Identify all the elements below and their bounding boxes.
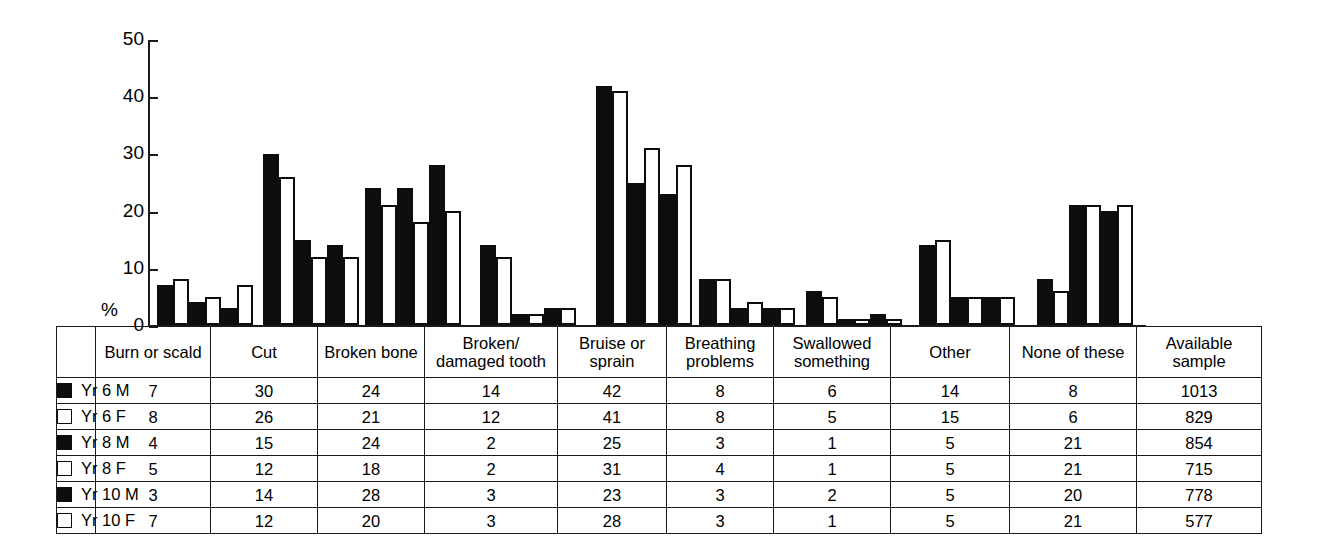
legend-swatch-icon (57, 435, 72, 450)
table-cell: 15 (891, 404, 1010, 430)
table-cell: 20 (318, 508, 425, 534)
injury-type-figure: % 50403020100 Burn or scaldCutBroken bon… (0, 0, 1318, 553)
bar (676, 165, 692, 325)
table-cell: 24 (318, 430, 425, 456)
bar (445, 211, 461, 325)
bar (806, 291, 822, 325)
bar (157, 285, 173, 325)
bar (381, 205, 397, 325)
bar (1117, 205, 1133, 325)
table-cell: 24 (318, 378, 425, 404)
table-cell: 715 (1137, 456, 1262, 482)
bar (983, 297, 999, 326)
bar (715, 279, 731, 325)
table-cell: 21 (1010, 430, 1137, 456)
bar (1069, 205, 1085, 325)
bar (596, 86, 612, 325)
table-cell: 18 (318, 456, 425, 482)
bar (528, 314, 544, 325)
legend-swatch-icon (57, 487, 72, 502)
column-header: None of these (1010, 327, 1137, 378)
column-header: Cut (211, 327, 318, 378)
table-cell: 12 (211, 508, 318, 534)
bar (1101, 211, 1117, 325)
bar (544, 308, 560, 325)
bar (173, 279, 189, 325)
table-cell: 1013 (1137, 378, 1262, 404)
table-head: Burn or scaldCutBroken boneBroken/ damag… (57, 327, 1262, 378)
bar (560, 308, 576, 325)
column-header: Broken/ damaged tooth (425, 327, 558, 378)
table-cell: 778 (1137, 482, 1262, 508)
legend-cell: Yr 8 F (57, 456, 96, 482)
bar (512, 314, 528, 325)
bar (1037, 279, 1053, 325)
table-cell: 1 (774, 508, 891, 534)
table-row: Yr 6 F82621124185156829 (57, 404, 1262, 430)
column-header: Breathing problems (667, 327, 774, 378)
table-row: Yr 10 M3142832332520778 (57, 482, 1262, 508)
bar (612, 91, 628, 325)
table-cell: 12 (211, 456, 318, 482)
table-cell: 20 (1010, 482, 1137, 508)
bar-group (696, 40, 798, 325)
bar-group (362, 40, 464, 325)
table-cell: 3 (667, 508, 774, 534)
table-cell: 829 (1137, 404, 1262, 430)
column-header: Bruise or sprain (558, 327, 667, 378)
table-cell: 14 (891, 378, 1010, 404)
legend-label: Yr 8 M (81, 433, 130, 451)
legend-label: Yr 8 F (81, 459, 126, 477)
bar-group (798, 40, 910, 325)
table-cell: 2 (425, 456, 558, 482)
column-header: Burn or scald (96, 327, 211, 378)
table-cell: 5 (891, 456, 1010, 482)
bar (205, 297, 221, 326)
legend-swatch-icon (57, 383, 72, 398)
bar (327, 245, 343, 325)
table-cell: 854 (1137, 430, 1262, 456)
y-tick-label: 50 (100, 29, 144, 48)
table-row: Yr 10 F7122032831521577 (57, 508, 1262, 534)
table-cell: 14 (425, 378, 558, 404)
bar (189, 302, 205, 325)
column-header: Broken bone (318, 327, 425, 378)
table-cell: 1 (774, 430, 891, 456)
bar (967, 297, 983, 326)
table-cell: 3 (667, 482, 774, 508)
bar (263, 154, 279, 325)
column-header: Available sample (1137, 327, 1262, 378)
bar-group (260, 40, 362, 325)
bar (237, 285, 253, 325)
bar-group (592, 40, 696, 325)
table-cell: 4 (667, 456, 774, 482)
table-cell: 2 (774, 482, 891, 508)
bar-group (150, 40, 260, 325)
table-cell: 41 (558, 404, 667, 430)
table-corner-cell (57, 327, 96, 378)
table-cell: 6 (774, 378, 891, 404)
bar (279, 177, 295, 325)
table-cell: 1 (774, 456, 891, 482)
bar-chart: % 50403020100 (0, 0, 1318, 340)
table-cell: 8 (667, 404, 774, 430)
legend-cell: Yr 6 M (57, 378, 96, 404)
table-cell: 31 (558, 456, 667, 482)
legend-cell: Yr 10 F (57, 508, 96, 534)
table-cell: 3 (425, 508, 558, 534)
legend-swatch-icon (57, 513, 72, 528)
bar (413, 222, 429, 325)
bar-group (910, 40, 1024, 325)
legend-swatch-icon (57, 409, 72, 424)
legend-label: Yr 10 M (81, 485, 139, 503)
bar (999, 297, 1015, 326)
bar (747, 302, 763, 325)
table-cell: 5 (891, 430, 1010, 456)
bar (343, 257, 359, 325)
legend-label: Yr 10 F (81, 511, 135, 529)
legend-cell: Yr 8 M (57, 430, 96, 456)
bar (731, 308, 747, 325)
table-row: Yr 6 M730241442861481013 (57, 378, 1262, 404)
legend-swatch-icon (57, 461, 72, 476)
table-cell: 5 (891, 482, 1010, 508)
